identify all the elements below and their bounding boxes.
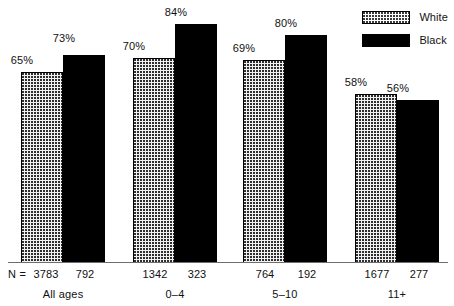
category-label-5-10: 5–10 <box>235 288 335 300</box>
n-value-white-11-plus: 1677 <box>355 268 399 280</box>
white-stipple-swatch-icon <box>362 11 410 24</box>
category-label-all-ages: All ages <box>13 288 113 300</box>
bar-white-5-10 <box>243 60 285 263</box>
legend-item-black: Black <box>362 31 448 49</box>
bar-black-5-10 <box>285 35 327 263</box>
bar-value-label: 58% <box>334 76 378 88</box>
bar-value-label: 84% <box>154 6 198 18</box>
bar-value-label: 65% <box>0 54 44 66</box>
bar-value-label: 70% <box>112 40 156 52</box>
n-value-black-5-10: 192 <box>285 268 329 280</box>
bar-value-label: 73% <box>42 32 86 44</box>
bar-black-all-ages <box>63 55 105 263</box>
n-value-black-all-ages: 792 <box>63 268 107 280</box>
black-solid-swatch-icon <box>362 34 410 47</box>
bar-black-0-4 <box>175 24 217 263</box>
grouped-bar-chart: 65% 73% 70% 84% 69% 80% 58% 56% N = 3783… <box>0 0 454 306</box>
bar-white-all-ages <box>21 72 63 263</box>
n-value-black-11-plus: 277 <box>397 268 441 280</box>
legend-label-white: White <box>419 11 448 24</box>
bar-white-0-4 <box>133 58 175 263</box>
legend-label-black: Black <box>419 34 446 47</box>
bar-value-label: 80% <box>264 17 308 29</box>
legend-item-white: White <box>362 8 448 26</box>
category-label-11-plus: 11+ <box>347 288 447 300</box>
x-axis-line <box>8 262 448 263</box>
bar-value-label: 69% <box>222 42 266 54</box>
category-label-0-4: 0–4 <box>125 288 225 300</box>
n-value-white-5-10: 764 <box>243 268 287 280</box>
bar-black-11-plus <box>397 100 439 263</box>
n-value-black-0-4: 323 <box>175 268 219 280</box>
n-value-white-all-ages: 3783 <box>24 268 68 280</box>
bar-white-11-plus <box>355 94 397 263</box>
bar-value-label: 56% <box>376 82 420 94</box>
chart-legend: White Black <box>362 8 448 54</box>
n-value-white-0-4: 1342 <box>133 268 177 280</box>
